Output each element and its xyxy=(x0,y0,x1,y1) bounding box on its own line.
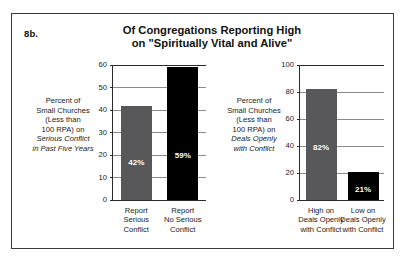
x-category-line: Report xyxy=(149,206,216,215)
y-tick-label: 100 xyxy=(268,60,294,69)
bar-value-label: 42% xyxy=(121,158,152,167)
gridline xyxy=(113,65,206,66)
caption-line: Percent of xyxy=(213,96,295,106)
left-chart-plot-area: 010203040506042%ReportSeriousConflict59%… xyxy=(113,65,206,200)
y-axis-line xyxy=(112,65,113,201)
x-category-line: Deals Openly xyxy=(333,215,393,224)
chart-title-line-1: Of Congregations Reporting High xyxy=(96,24,328,37)
y-tick-label: 20 xyxy=(81,150,107,159)
bar-value-label: 59% xyxy=(167,151,198,160)
y-tick-label: 60 xyxy=(81,60,107,69)
y-tick-label: 20 xyxy=(268,168,294,177)
y-tick-label: 50 xyxy=(81,83,107,92)
y-tick-label: 40 xyxy=(81,105,107,114)
y-tick-label: 60 xyxy=(268,114,294,123)
bar-value-label: 21% xyxy=(348,185,379,194)
caption-line: 100 RPA) on xyxy=(213,125,295,135)
x-category-label: ReportNo SeriousConflict xyxy=(149,206,216,234)
caption-line: (Less than xyxy=(22,115,104,125)
chart-title-line-2: on "Spiritually Vital and Alive" xyxy=(96,37,328,50)
figure-number: 8b. xyxy=(24,28,38,39)
y-tick-label: 40 xyxy=(268,141,294,150)
x-category-line: Low on xyxy=(333,206,393,215)
bar[interactable]: 42% xyxy=(121,106,152,201)
x-category-line: Conflict xyxy=(149,225,216,234)
y-tick-label: 30 xyxy=(81,128,107,137)
right-chart-plot-area: 02040608010082%High onDeals Openlywith C… xyxy=(300,65,384,200)
y-tick-label: 0 xyxy=(81,195,107,204)
chart-title: Of Congregations Reporting High on "Spir… xyxy=(96,24,328,51)
bar[interactable]: 82% xyxy=(306,89,337,200)
x-category-label: Low onDeals Openlywith Conflict xyxy=(333,206,393,234)
figure-container: 8b. Of Congregations Reporting High on "… xyxy=(0,0,413,270)
x-category-line: with Conflict xyxy=(333,225,393,234)
y-axis-line xyxy=(299,65,300,201)
y-tick-label: 0 xyxy=(268,195,294,204)
bar[interactable]: 59% xyxy=(167,67,198,200)
bar[interactable]: 21% xyxy=(348,172,379,200)
x-category-line: No Serious xyxy=(149,215,216,224)
bar-value-label: 82% xyxy=(306,143,337,152)
gridline xyxy=(300,65,384,66)
y-tick-label: 80 xyxy=(268,87,294,96)
y-tick-label: 10 xyxy=(81,173,107,182)
